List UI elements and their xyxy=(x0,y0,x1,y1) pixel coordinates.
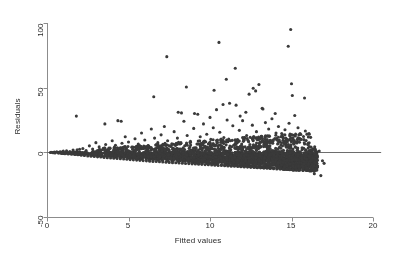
x-tick-label-10: 10 xyxy=(195,221,225,230)
residuals-vs-fitted-figure: Fitted values Residuals 0 5 10 15 20 100… xyxy=(0,0,396,259)
x-tick-label-20: 20 xyxy=(358,221,388,230)
y-tick-label-50: 50 xyxy=(36,88,45,114)
x-axis-label: Fitted values xyxy=(0,236,396,245)
x-tick-label-5: 5 xyxy=(113,221,143,230)
x-tick-label-15: 15 xyxy=(276,221,306,230)
y-tick-label-100: 100 xyxy=(36,24,45,50)
y-axis-label: Residuals xyxy=(13,72,22,162)
y-tick-label-0: 0 xyxy=(36,152,45,178)
y-tick-label-minus50: -50 xyxy=(36,216,45,242)
